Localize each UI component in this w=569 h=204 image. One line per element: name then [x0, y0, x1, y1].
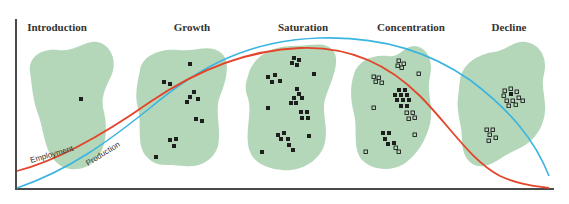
- stage-label-growth: Growth: [174, 21, 210, 33]
- stage-label-decline: Decline: [492, 21, 527, 33]
- stage-label-introduction: Introduction: [27, 21, 87, 33]
- industry-lifecycle-diagram: Employment Production Introduction Growt…: [0, 0, 569, 204]
- stage-label-saturation: Saturation: [278, 21, 328, 33]
- region-concentration: [351, 46, 431, 169]
- stage-label-concentration: Concentration: [377, 21, 445, 33]
- region-decline: [458, 42, 546, 166]
